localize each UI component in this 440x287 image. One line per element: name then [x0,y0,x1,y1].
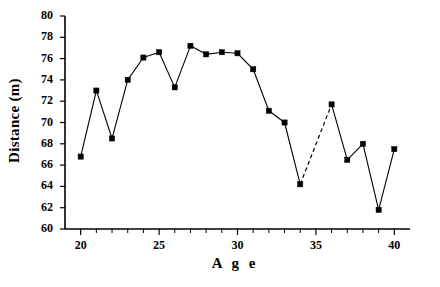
data-segment [253,69,269,111]
data-series-lines [81,46,395,210]
data-point-marker [235,51,240,56]
y-tick-label: 76 [27,51,53,66]
data-point-marker [376,207,381,212]
y-tick-label: 68 [27,136,53,151]
x-tick-label: 35 [301,238,331,253]
data-point-marker [172,85,177,90]
data-segment [285,123,301,185]
data-point-marker [219,50,224,55]
x-tick-label: 20 [66,238,96,253]
data-segment [96,91,112,139]
chart-figure: Distance (m) A g e 606264666870727476788… [0,0,440,287]
x-tick-label: 40 [379,238,409,253]
y-tick-label: 74 [27,72,53,87]
data-point-marker [345,157,350,162]
data-point-marker [94,88,99,93]
data-point-marker [125,77,130,82]
y-tick-label: 72 [27,93,53,108]
data-segment [332,104,348,159]
data-point-marker [360,141,365,146]
x-tick-label: 25 [144,238,174,253]
data-point-marker [266,108,271,113]
data-segment [159,52,175,87]
x-tick-label: 30 [223,238,253,253]
data-point-marker [156,50,161,55]
data-series-markers [78,43,397,212]
data-segment [175,46,191,88]
data-point-marker [141,55,146,60]
data-segment [81,91,97,157]
data-point-marker [204,52,209,57]
data-point-marker [298,182,303,187]
y-tick-label: 66 [27,157,53,172]
y-tick-label: 64 [27,178,53,193]
data-segment [112,80,128,139]
data-point-marker [78,154,83,159]
data-point-marker [109,136,114,141]
data-segment [379,149,395,210]
data-point-marker [329,102,334,107]
data-segment-interpolated [300,104,331,184]
data-point-marker [251,67,256,72]
data-point-marker [282,120,287,125]
y-tick-label: 78 [27,29,53,44]
data-point-marker [392,147,397,152]
y-tick-label: 80 [27,8,53,23]
y-tick-label: 60 [27,221,53,236]
data-segment [363,144,379,210]
data-point-marker [188,43,193,48]
data-segment [128,58,144,80]
y-tick-label: 70 [27,115,53,130]
y-tick-label: 62 [27,200,53,215]
